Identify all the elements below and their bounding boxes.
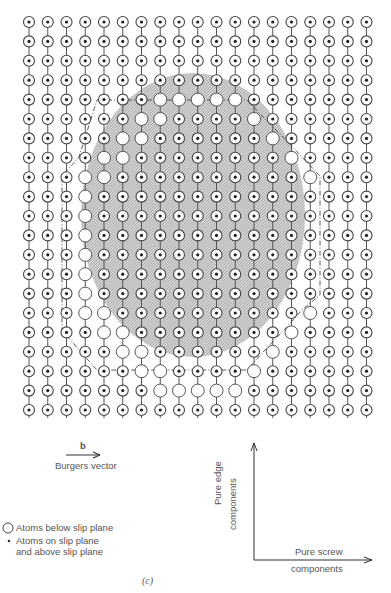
atom-center-dot (140, 292, 143, 295)
atom-center-dot (177, 176, 180, 179)
atom-center-dot (140, 195, 143, 198)
x-axis-label-line2: components (291, 563, 343, 574)
atom-center-dot (215, 350, 218, 353)
atom-center-dot (65, 156, 68, 159)
atom-below-slip-plane (116, 326, 129, 339)
atom-center-dot (196, 214, 199, 217)
atom-center-dot (140, 311, 143, 314)
atom-center-dot (159, 292, 162, 295)
atom-center-dot (121, 234, 124, 237)
atom-center-dot (102, 195, 105, 198)
atom-center-dot (27, 40, 30, 43)
atom-center-dot (140, 20, 143, 23)
atom-center-dot (65, 389, 68, 392)
atom-below-slip-plane (154, 384, 167, 397)
atom-center-dot (271, 408, 274, 411)
atom-center-dot (309, 137, 312, 140)
atom-center-dot (65, 117, 68, 120)
dot-legend-icon (8, 540, 11, 543)
atom-center-dot (290, 370, 293, 373)
atom-center-dot (271, 98, 274, 101)
atom-below-slip-plane (210, 384, 223, 397)
atom-center-dot (102, 137, 105, 140)
atom-center-dot (290, 137, 293, 140)
atom-center-dot (65, 370, 68, 373)
atom-center-dot (365, 292, 368, 295)
atom-center-dot (327, 292, 330, 295)
atom-center-dot (177, 59, 180, 62)
atom-center-dot (271, 79, 274, 82)
atom-center-dot (215, 292, 218, 295)
atom-center-dot (290, 311, 293, 314)
atom-center-dot (365, 311, 368, 314)
atom-center-dot (27, 408, 30, 411)
atom-center-dot (46, 79, 49, 82)
atom-center-dot (215, 156, 218, 159)
atom-below-slip-plane (98, 171, 111, 184)
atom-center-dot (102, 350, 105, 353)
x-axis-label-line1: Pure screw (295, 546, 343, 557)
atom-center-dot (27, 20, 30, 23)
atom-center-dot (215, 234, 218, 237)
atom-center-dot (346, 234, 349, 237)
atom-center-dot (159, 59, 162, 62)
legend-dot-label-line2: and above slip plane (16, 546, 103, 557)
atom-center-dot (327, 20, 330, 23)
atom-center-dot (121, 292, 124, 295)
atom-center-dot (159, 311, 162, 314)
atom-center-dot (309, 273, 312, 276)
atom-center-dot (215, 176, 218, 179)
atom-center-dot (346, 195, 349, 198)
atom-below-slip-plane (79, 210, 92, 223)
atom-center-dot (327, 117, 330, 120)
atom-center-dot (84, 389, 87, 392)
atom-center-dot (215, 20, 218, 23)
atom-below-slip-plane (173, 384, 186, 397)
atom-below-slip-plane (98, 151, 111, 164)
atom-center-dot (121, 98, 124, 101)
atom-center-dot (365, 40, 368, 43)
atom-center-dot (234, 117, 237, 120)
atom-below-slip-plane (229, 384, 242, 397)
atom-center-dot (365, 98, 368, 101)
atom-center-dot (290, 195, 293, 198)
atom-below-slip-plane (116, 151, 129, 164)
atom-center-dot (46, 137, 49, 140)
atom-center-dot (177, 156, 180, 159)
atom-center-dot (234, 137, 237, 140)
atom-center-dot (234, 214, 237, 217)
atom-center-dot (346, 389, 349, 392)
atom-center-dot (290, 350, 293, 353)
atom-center-dot (65, 408, 68, 411)
atom-center-dot (140, 156, 143, 159)
atom-below-slip-plane (79, 229, 92, 242)
atom-center-dot (196, 117, 199, 120)
atom-center-dot (346, 117, 349, 120)
atom-center-dot (365, 350, 368, 353)
atom-center-dot (365, 370, 368, 373)
atom-center-dot (46, 195, 49, 198)
atom-center-dot (365, 234, 368, 237)
atom-center-dot (177, 137, 180, 140)
atom-center-dot (365, 59, 368, 62)
atom-center-dot (121, 79, 124, 82)
atom-center-dot (46, 98, 49, 101)
atom-center-dot (252, 59, 255, 62)
atom-center-dot (234, 350, 237, 353)
atom-center-dot (234, 59, 237, 62)
atom-center-dot (271, 59, 274, 62)
atom-center-dot (121, 389, 124, 392)
atom-center-dot (309, 408, 312, 411)
atom-center-dot (327, 234, 330, 237)
atom-center-dot (102, 117, 105, 120)
atom-center-dot (196, 292, 199, 295)
atom-center-dot (215, 370, 218, 373)
atom-center-dot (365, 117, 368, 120)
atom-center-dot (252, 273, 255, 276)
atom-center-dot (271, 292, 274, 295)
atom-center-dot (252, 350, 255, 353)
atom-center-dot (252, 20, 255, 23)
atom-center-dot (196, 176, 199, 179)
atom-center-dot (234, 176, 237, 179)
atom-below-slip-plane (248, 365, 261, 378)
